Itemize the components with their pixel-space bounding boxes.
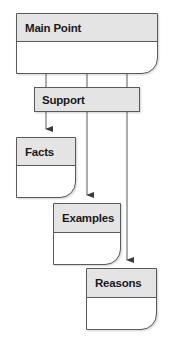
support-node: Support xyxy=(34,87,140,112)
examples-node: Examples xyxy=(53,203,121,265)
reasons-label: Reasons xyxy=(87,269,156,298)
main-point-node: Main Point xyxy=(16,13,158,74)
reasons-node: Reasons xyxy=(86,268,157,330)
facts-label: Facts xyxy=(17,138,75,166)
examples-label: Examples xyxy=(54,204,120,233)
facts-node: Facts xyxy=(16,137,76,198)
main-point-label: Main Point xyxy=(17,14,157,42)
